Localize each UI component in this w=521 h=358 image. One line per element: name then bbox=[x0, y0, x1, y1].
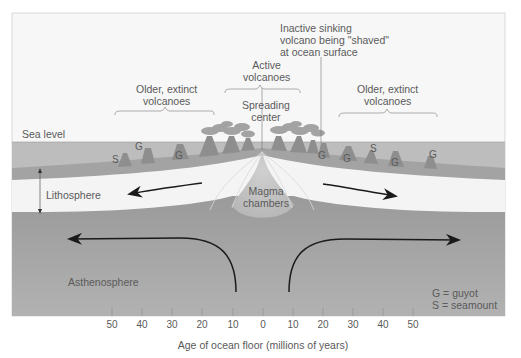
inactive-line3: at ocean surface bbox=[280, 46, 389, 58]
legend-guyot: G = guyot bbox=[432, 287, 497, 299]
axis-tick-labels: 50 40 30 20 10 0 10 20 30 40 50 bbox=[106, 319, 419, 330]
legend-seamount: S = seamount bbox=[432, 299, 497, 311]
axis-label: Age of ocean floor (millions of years) bbox=[163, 339, 363, 351]
magma-chambers-line2: chambers bbox=[243, 197, 289, 209]
sea-level-label: Sea level bbox=[22, 128, 65, 140]
marker-g-left-2: G bbox=[175, 150, 183, 161]
marker-g-right-1: G bbox=[318, 150, 326, 161]
svg-text:30: 30 bbox=[166, 319, 178, 330]
older-right-line2: volcanoes bbox=[357, 95, 418, 107]
spreading-center-line2: center bbox=[242, 111, 290, 123]
marker-g-right-4: G bbox=[429, 149, 437, 160]
svg-text:50: 50 bbox=[106, 319, 118, 330]
marker-g-right-2: G bbox=[343, 153, 351, 164]
svg-text:40: 40 bbox=[377, 319, 389, 330]
svg-text:40: 40 bbox=[136, 319, 148, 330]
marker-s-right: S bbox=[370, 143, 377, 154]
asthenosphere-label: Asthenosphere bbox=[68, 276, 139, 288]
older-left-line2: volcanoes bbox=[136, 95, 197, 107]
inactive-volcano-label: Inactive sinking volcano being "shaved" … bbox=[280, 22, 389, 58]
svg-text:20: 20 bbox=[317, 319, 329, 330]
magma-chambers-line1: Magma bbox=[243, 185, 289, 197]
svg-text:20: 20 bbox=[196, 319, 208, 330]
marker-g-right-3: G bbox=[391, 157, 399, 168]
magma-chambers-label: Magma chambers bbox=[243, 185, 289, 209]
older-left-line1: Older, extinct bbox=[136, 83, 197, 95]
active-volcanoes-line2: volcanoes bbox=[243, 71, 290, 83]
lithosphere-label: Lithosphere bbox=[46, 189, 101, 201]
active-volcanoes-label: Active volcanoes bbox=[243, 59, 290, 83]
marker-g-left-1: G bbox=[135, 141, 143, 152]
svg-text:0: 0 bbox=[260, 319, 266, 330]
spreading-center-label: Spreading center bbox=[242, 99, 290, 123]
older-volcanoes-left-label: Older, extinct volcanoes bbox=[136, 83, 197, 107]
older-volcanoes-right-label: Older, extinct volcanoes bbox=[357, 83, 418, 107]
older-right-line1: Older, extinct bbox=[357, 83, 418, 95]
inactive-line1: Inactive sinking bbox=[280, 22, 389, 34]
svg-text:10: 10 bbox=[227, 319, 239, 330]
svg-text:50: 50 bbox=[407, 319, 419, 330]
active-volcanoes-line1: Active bbox=[243, 59, 290, 71]
inactive-line2: volcano being "shaved" bbox=[280, 34, 389, 46]
legend: G = guyot S = seamount bbox=[432, 287, 497, 311]
svg-text:10: 10 bbox=[287, 319, 299, 330]
svg-text:30: 30 bbox=[347, 319, 359, 330]
marker-s-left: S bbox=[112, 154, 119, 165]
spreading-center-line1: Spreading bbox=[242, 99, 290, 111]
